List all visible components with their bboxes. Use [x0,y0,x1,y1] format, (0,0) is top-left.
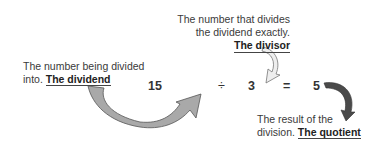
dividend-term: The dividend [46,73,111,86]
quotient-term: The quotient [298,126,361,139]
dividend-arrow [88,86,201,128]
divide-operator: ÷ [218,79,225,93]
dividend-number: 15 [148,79,162,93]
divisor-term: The divisor [234,39,290,53]
dividend-label-text: The number being divided into. The divid… [23,60,144,86]
quotient-number: 5 [313,79,320,93]
divisor-number: 3 [248,79,255,93]
equals-sign: = [283,79,290,93]
quotient-label: The result of the division. The quotient [257,113,361,139]
divisor-label: The number that divides the dividend exa… [190,13,290,39]
